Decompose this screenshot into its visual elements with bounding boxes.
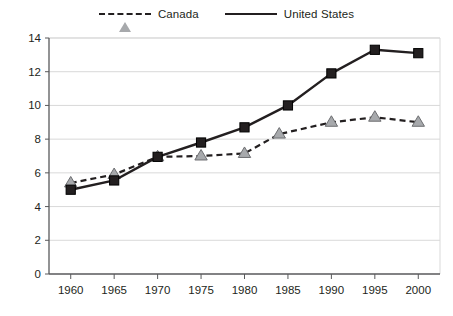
legend-label-united-states: United States <box>284 7 354 21</box>
united-states-point <box>110 176 119 185</box>
legend-entry-united-states: United States <box>225 7 354 21</box>
canada-point <box>369 111 381 122</box>
x-tick-label: 1995 <box>362 284 388 296</box>
y-axis-tick-labels: 02468101214 <box>28 32 41 280</box>
y-tick-label: 8 <box>35 133 41 145</box>
x-tick-label: 1980 <box>232 284 258 296</box>
y-tick-label: 10 <box>28 99 41 111</box>
united-states-point <box>66 185 75 194</box>
y-tick-label: 14 <box>28 32 41 44</box>
united-states-point <box>153 152 162 161</box>
x-tick-label: 1975 <box>188 284 214 296</box>
triangle-marker-icon <box>119 5 131 23</box>
x-tick-label: 1990 <box>319 284 345 296</box>
x-tick-label: 1960 <box>58 284 84 296</box>
chart-legend: Canada United States <box>0 4 453 24</box>
legend-key-canada <box>99 7 151 21</box>
x-tick-label: 1985 <box>275 284 301 296</box>
plot-area: 02468101214 1960196519701975198019851990… <box>0 24 453 316</box>
x-tick-label: 1965 <box>101 284 127 296</box>
x-tick-marks-group <box>71 274 419 279</box>
legend-key-united-states <box>225 7 277 21</box>
y-tick-label: 6 <box>35 167 41 179</box>
legend-label-canada: Canada <box>158 7 199 21</box>
united-states-polyline <box>71 50 419 190</box>
united-states-point <box>283 101 292 110</box>
y-tick-label: 0 <box>35 268 41 280</box>
canada-point <box>195 149 207 160</box>
x-tick-label: 2000 <box>405 284 431 296</box>
y-tick-label: 2 <box>35 234 41 246</box>
x-tick-label: 1970 <box>145 284 171 296</box>
solid-line-icon <box>225 13 277 15</box>
line-chart-figure: Canada United States 02468101214 1960196… <box>0 0 453 316</box>
united-states-point <box>370 45 379 54</box>
united-states-point <box>414 49 423 58</box>
x-axis-tick-labels: 196019651970197519801985199019952000 <box>58 284 431 296</box>
gridlines-group <box>49 38 440 240</box>
united-states-point <box>196 138 205 147</box>
y-tick-label: 12 <box>28 66 41 78</box>
legend-entry-canada: Canada <box>99 7 199 21</box>
united-states-point <box>240 123 249 132</box>
y-tick-label: 4 <box>35 201 42 213</box>
united-states-point <box>327 69 336 78</box>
